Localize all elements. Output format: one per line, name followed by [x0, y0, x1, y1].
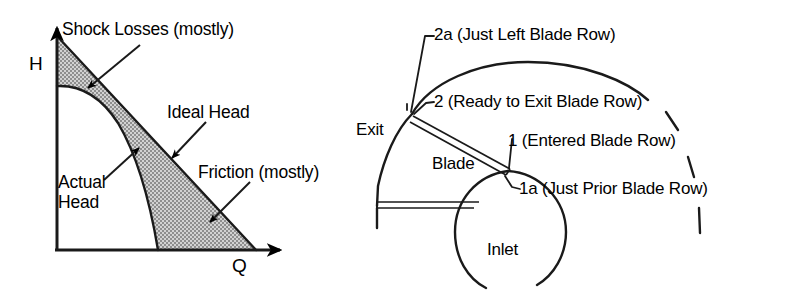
outer-exit-arc-right-3	[699, 208, 700, 233]
outer-exit-arc-right-2	[688, 157, 694, 177]
callout-friction: Friction (mostly)	[198, 164, 319, 182]
callout-ideal-head: Ideal Head	[167, 104, 250, 122]
x-axis-label: Q	[232, 256, 247, 275]
callout-actual-head: Actual Head	[58, 172, 105, 212]
station-label-1a: 1a (Just Prior Blade Row)	[519, 180, 708, 197]
station-label-2: 2 (Ready to Exit Blade Row)	[434, 93, 642, 110]
inlet-arc-left	[455, 171, 508, 288]
label-inlet: Inlet	[487, 241, 518, 258]
figure-root: H Q Shock Losses (mostly) Ideal Head Fri…	[0, 0, 798, 292]
actual-head-leader	[104, 148, 139, 180]
left-chart-group	[55, 28, 280, 250]
station-label-2a: 2a (Just Left Blade Row)	[434, 26, 615, 43]
label-blade: Blade	[432, 155, 474, 172]
callout-shock-losses: Shock Losses (mostly)	[62, 21, 234, 39]
shock-losses-leader	[88, 45, 140, 88]
friction-leader	[210, 182, 250, 222]
station-1a-leader	[505, 176, 520, 189]
right-diagram-group	[377, 36, 700, 288]
label-exit: Exit	[356, 121, 384, 138]
ideal-head-leader	[172, 122, 206, 158]
y-axis-label: H	[29, 54, 43, 73]
station-label-1: 1 (Entered Blade Row)	[508, 132, 676, 149]
outer-exit-arc-right-1	[666, 112, 678, 130]
figure-canvas	[0, 0, 798, 292]
